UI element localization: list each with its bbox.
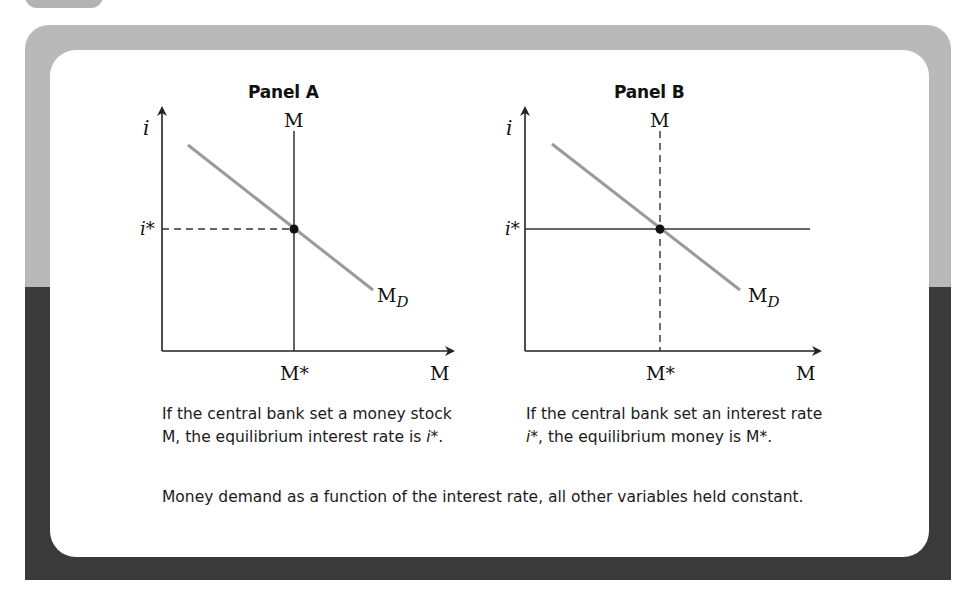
money-market-diagram: i M M i* MD M* i M M i* MD M* xyxy=(0,0,974,600)
panel-b-x-label: M xyxy=(796,362,815,384)
panel-a-caption: If the central bank set a money stock M,… xyxy=(162,403,462,449)
panel-b-demand-label: MD xyxy=(748,284,780,311)
panel-a-supply-label: M xyxy=(284,109,303,131)
panel-b-rate-label: i* xyxy=(505,218,520,239)
panel-a-chart: i M M i* MD M* xyxy=(140,108,453,384)
panel-b-chart: i M M i* MD M* xyxy=(505,108,820,384)
panel-a-x-label: M xyxy=(430,362,449,384)
panel-a-demand-curve xyxy=(188,145,373,290)
panel-a-rate-label: i* xyxy=(140,218,155,239)
panel-a-equilibrium-point xyxy=(290,225,299,234)
panel-a-demand-label: MD xyxy=(377,284,409,311)
panel-b-equilibrium-quantity-label: M* xyxy=(646,362,675,384)
figure-footer-caption: Money demand as a function of the intere… xyxy=(162,486,822,509)
panel-b-y-label: i xyxy=(506,116,512,140)
panel-b-demand-curve xyxy=(552,144,740,290)
panel-b-equilibrium-point xyxy=(656,225,665,234)
panel-a-equilibrium-quantity-label: M* xyxy=(280,362,309,384)
panel-b-caption: If the central bank set an interest rate… xyxy=(526,403,836,449)
panel-b-supply-label: M xyxy=(650,109,669,131)
panel-a-y-label: i xyxy=(143,116,149,140)
